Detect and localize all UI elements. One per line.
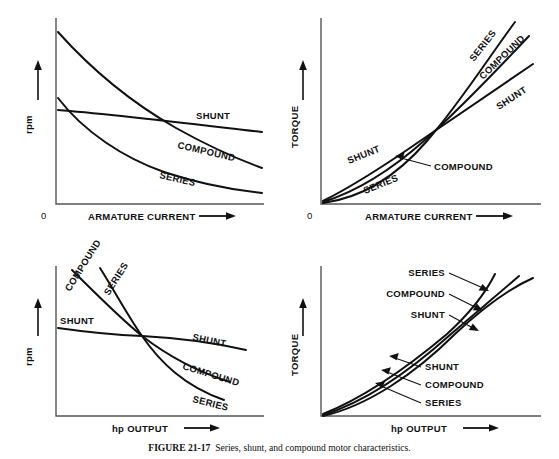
- x-axis-arrow-icon: [199, 212, 236, 220]
- curve-compound: [58, 32, 262, 168]
- figure-caption-number: FIGURE 21-17: [148, 442, 210, 453]
- x-axis-label: hp OUTPUT: [112, 423, 168, 434]
- leader-line-shunt-lower: [389, 353, 421, 367]
- y-axis-label: rpm: [23, 347, 34, 366]
- curve-label-shunt-left: SHUNT: [60, 315, 94, 326]
- curve-label-compound-mid: COMPOUND: [434, 161, 493, 172]
- curve-label-compound: COMPOUND: [177, 139, 237, 163]
- curve-compound: [72, 270, 230, 382]
- y-axis-arrow-icon: [299, 298, 307, 336]
- curve-label-compound-lower: COMPOUND: [425, 379, 484, 390]
- axis-lines: [56, 266, 264, 416]
- figure-motor-characteristics: rpm 0 ARMATURE CURRENT SHUNT COMPOUND SE…: [0, 0, 559, 459]
- panel-torque-vs-hp-output: TORQUE hp OUTPUT SERIES COMPOUND SHUNT: [283, 236, 555, 441]
- y-axis-label: TORQUE: [289, 106, 300, 148]
- curve-label-series-right: SERIES: [192, 393, 230, 413]
- curve-label-compound-upper: COMPOUND: [386, 288, 445, 299]
- y-axis-arrow-icon: [34, 298, 42, 336]
- panel-torque-vs-armature-current: TORQUE 0 ARMATURE CURRENT SERIES COMPOUN…: [283, 8, 555, 223]
- curve-label-shunt-lower: SHUNT: [346, 143, 382, 166]
- curve-label-shunt: SHUNT: [196, 110, 230, 121]
- x-axis-label: ARMATURE CURRENT: [88, 211, 196, 222]
- curve-label-series-lower: SERIES: [425, 397, 462, 408]
- x-axis-label: ARMATURE CURRENT: [365, 211, 473, 222]
- x-axis-label: hp OUTPUT: [391, 423, 447, 434]
- leader-line-series-upper: [449, 273, 489, 291]
- origin-label: 0: [307, 210, 312, 221]
- curve-label-series-upper: SERIES: [408, 267, 445, 278]
- y-axis-label: rpm: [23, 115, 34, 134]
- x-axis-arrow-icon: [463, 424, 499, 431]
- x-axis-arrow-icon: [184, 424, 220, 431]
- curve-label-shunt-lower: SHUNT: [425, 361, 459, 372]
- figure-caption-text: Series, shunt, and compound motor charac…: [215, 442, 411, 453]
- curve-label-compound-upper: COMPOUND: [62, 237, 103, 293]
- panel-speed-vs-armature-current: rpm 0 ARMATURE CURRENT SHUNT COMPOUND SE…: [14, 8, 279, 223]
- curve-label-series: SERIES: [159, 169, 197, 188]
- figure-caption: FIGURE 21-17 Series, shunt, and compound…: [0, 441, 559, 459]
- curve-label-shunt-upper: SHUNT: [411, 309, 445, 320]
- y-axis-arrow-icon: [299, 60, 307, 100]
- y-axis-label: TORQUE: [289, 334, 300, 376]
- panel-speed-vs-hp-output: rpm hp OUTPUT COMPOUND SERIES SHUNT SHUN…: [14, 236, 279, 441]
- curve-shunt: [323, 64, 533, 201]
- y-axis-arrow-icon: [34, 60, 42, 100]
- curve-label-shunt-right: SHUNT: [192, 331, 228, 349]
- origin-label: 0: [41, 210, 46, 221]
- x-axis-arrow-icon: [476, 212, 513, 220]
